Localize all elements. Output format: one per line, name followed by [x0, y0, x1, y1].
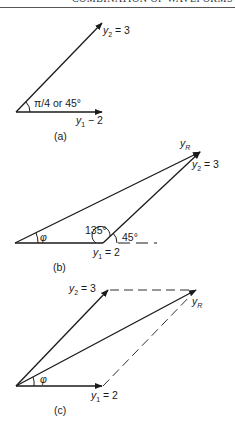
angle-arc-phi-b	[36, 233, 38, 243]
caption-c: (c)	[54, 404, 66, 416]
vector-y2-b	[103, 152, 200, 243]
label-angle-135-b: 135°	[85, 224, 107, 236]
label-angle-45-b: 45°	[122, 231, 138, 243]
phasor-diagrams: y2 = 3 π/4 or 45° y1 − 2 (a) yR y2 = 3 φ…	[0, 0, 235, 433]
label-yR-b: yR	[179, 137, 190, 151]
label-phi-c: φ	[40, 373, 47, 385]
vector-yR-c	[16, 290, 196, 386]
label-angle-a: π/4 or 45°	[34, 97, 81, 109]
label-y1-c: y1 = 2	[90, 389, 118, 403]
label-yR-c: yR	[191, 295, 202, 309]
label-y2-c: y2 = 3	[68, 282, 96, 296]
caption-b: (b)	[53, 261, 66, 273]
label-y1-a: y1 − 2	[75, 114, 103, 128]
label-y2-a: y2 = 3	[102, 24, 130, 38]
angle-arc-45-b	[113, 233, 117, 243]
figure-c: y2 = 3 yR φ y1 = 2 (c)	[16, 282, 202, 416]
label-y1-b: y1 = 2	[92, 246, 120, 260]
angle-arc-phi-c	[33, 377, 34, 386]
label-phi-b: φ	[40, 231, 47, 243]
angle-arc-a	[26, 102, 30, 112]
label-y2-b: y2 = 3	[191, 158, 219, 172]
parallelogram-dash-side-c	[103, 292, 194, 386]
figure-a: y2 = 3 π/4 or 45° y1 − 2 (a)	[16, 23, 130, 142]
caption-a: (a)	[54, 130, 67, 142]
vector-y2-c	[16, 290, 108, 386]
figure-b: yR y2 = 3 φ 135° 45° y1 = 2 (b)	[15, 137, 219, 273]
